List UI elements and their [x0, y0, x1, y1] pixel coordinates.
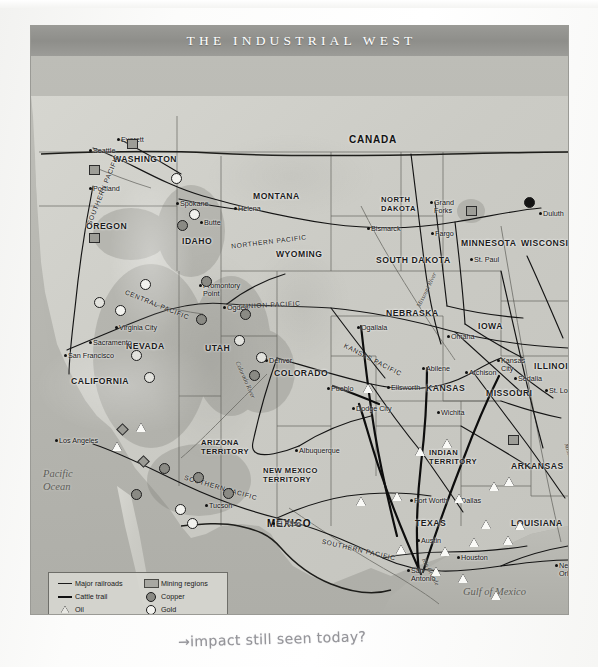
legend-item-gold: Gold — [141, 603, 208, 614]
mining-region-swatch-icon — [141, 579, 161, 588]
oil-triangle-icon — [55, 606, 75, 613]
legend-column-left: Major railroads Cattle trail Oil Citrus — [55, 577, 123, 614]
legend-item-oil: Oil — [55, 603, 123, 614]
map-legend: Major railroads Cattle trail Oil Citrus — [48, 572, 228, 614]
legend-item-mining-regions: Mining regions — [141, 577, 208, 590]
map-plate: THE INDUSTRIAL WEST — [31, 26, 568, 614]
map-title-banner: THE INDUSTRIAL WEST — [31, 26, 568, 56]
legend-label: Major railroads — [75, 579, 123, 588]
legend-label: Oil — [75, 605, 84, 614]
legend-label: Mining regions — [161, 579, 208, 588]
legend-column-right: Mining regions Copper Gold Iron ore — [141, 577, 208, 614]
cattle-trail-line-icon — [55, 596, 75, 598]
map-geography — [31, 56, 568, 614]
scanned-page: THE INDUSTRIAL WEST — [0, 0, 598, 667]
legend-label: Cattle trail — [75, 592, 107, 601]
map-canvas: CANADAMEXICOPacificOceanGulf of MexicoWA… — [31, 56, 568, 614]
railroad-line-icon — [55, 583, 75, 584]
page-top-edge — [0, 0, 598, 8]
handwritten-annotation: →impact still seen today? — [178, 628, 367, 649]
legend-label: Copper — [161, 592, 185, 601]
legend-item-major-railroads: Major railroads — [55, 577, 123, 590]
gold-circle-icon — [141, 605, 161, 614]
legend-item-copper: Copper — [141, 590, 208, 603]
map-title: THE INDUSTRIAL WEST — [183, 33, 417, 49]
legend-item-cattle-trail: Cattle trail — [55, 590, 123, 603]
legend-label: Gold — [161, 605, 176, 614]
copper-circle-icon — [141, 592, 161, 602]
